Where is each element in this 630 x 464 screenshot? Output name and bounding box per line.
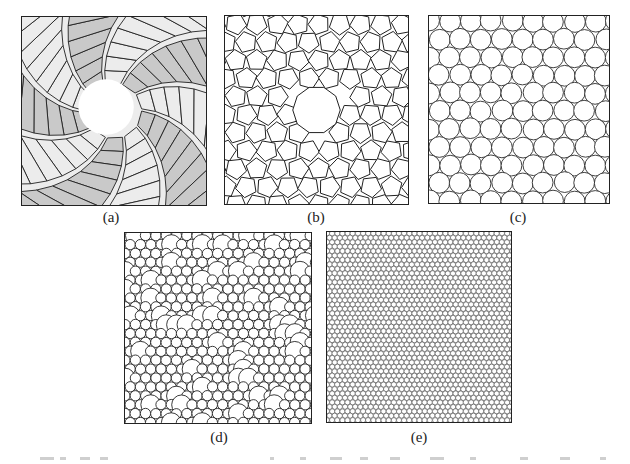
panel-b-pentagon-tiling xyxy=(224,15,409,205)
caption-fragment xyxy=(560,457,570,460)
circle-packing-coarse-graphic xyxy=(429,16,609,203)
caption-fragment xyxy=(470,457,476,460)
caption-fragment xyxy=(330,457,342,460)
caption-fragment xyxy=(600,457,606,460)
cropped-caption-text xyxy=(0,457,630,464)
panel-c-label: (c) xyxy=(510,209,527,226)
caption-fragment xyxy=(520,457,528,460)
panel-c-circle-packing xyxy=(428,15,610,204)
circle-packing-fine-graphic xyxy=(327,232,511,422)
caption-fragment xyxy=(430,457,444,460)
caption-fragment xyxy=(360,457,368,460)
panel-e-label: (e) xyxy=(411,429,428,446)
panel-a-spiral-tiling xyxy=(21,16,207,206)
spiral-rhombus-graphic xyxy=(22,17,206,205)
caption-fragment xyxy=(80,457,90,460)
panel-e-circle-packing xyxy=(326,231,512,423)
caption-fragment xyxy=(390,457,400,460)
caption-fragment xyxy=(300,457,306,460)
caption-fragment xyxy=(40,457,54,460)
panel-b-label: (b) xyxy=(307,209,325,226)
caption-fragment xyxy=(60,457,66,460)
caption-fragment xyxy=(270,457,274,460)
panel-d-circle-packing xyxy=(124,232,312,424)
panel-a-label: (a) xyxy=(103,209,120,226)
circle-packing-medium-graphic xyxy=(125,233,311,423)
caption-fragment xyxy=(100,457,108,460)
panel-d-label: (d) xyxy=(210,429,228,446)
pentagon-rhombus-tiling-graphic xyxy=(225,16,408,204)
